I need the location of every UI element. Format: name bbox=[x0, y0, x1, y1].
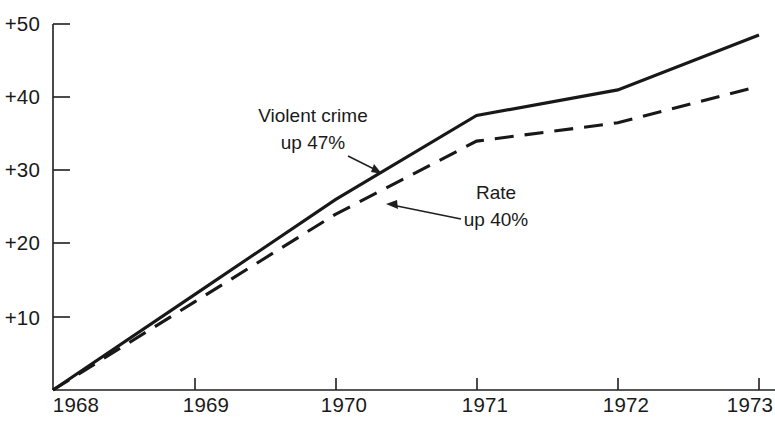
x-tick-label-1970: 1970 bbox=[321, 393, 367, 416]
x-tick-label-1971: 1971 bbox=[462, 393, 508, 416]
rate-annotation-arrowhead bbox=[386, 200, 398, 209]
x-tick-label-1972: 1972 bbox=[603, 393, 649, 416]
y-tick-label-20: +20 bbox=[5, 231, 40, 254]
violent-crime-annotation: Violent crime up 47% bbox=[258, 105, 382, 174]
violent-crime-annotation-line2: up 47% bbox=[281, 132, 346, 153]
series-line-rate bbox=[53, 86, 759, 390]
y-tick-label-50: +50 bbox=[5, 12, 40, 35]
y-tick-label-10: +10 bbox=[5, 306, 40, 329]
rate-annotation-leader bbox=[392, 205, 461, 219]
violent-crime-annotation-line1: Violent crime bbox=[258, 105, 367, 126]
rate-annotation-line1: Rate bbox=[476, 182, 516, 203]
chart-container: +50 +40 +30 +20 +10 1968 1969 1970 1971 … bbox=[0, 0, 775, 421]
violent-crime-annotation-arrowhead bbox=[371, 164, 382, 174]
x-tick-label-1973: 1973 bbox=[727, 393, 773, 416]
rate-annotation: Rate up 40% bbox=[386, 182, 528, 230]
y-tick-label-30: +30 bbox=[5, 158, 40, 181]
x-tick-label-1969: 1969 bbox=[183, 393, 229, 416]
series-line-violent-crime bbox=[53, 35, 759, 390]
rate-annotation-line2: up 40% bbox=[464, 209, 529, 230]
x-tick-label-1968: 1968 bbox=[53, 393, 99, 416]
y-tick-label-40: +40 bbox=[5, 85, 40, 108]
line-chart: +50 +40 +30 +20 +10 1968 1969 1970 1971 … bbox=[0, 0, 775, 421]
